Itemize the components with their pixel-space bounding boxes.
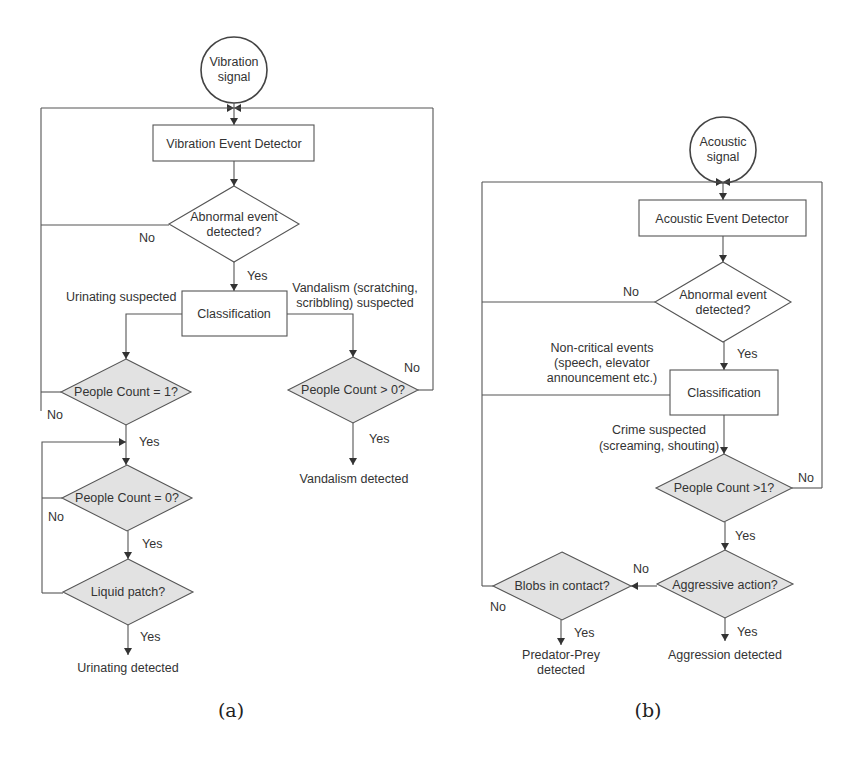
arrow-down-icon (349, 350, 357, 357)
pcgt0-yes-label: Yes (369, 432, 389, 446)
blobs-in-contact-label: Blobs in contact? (514, 579, 609, 593)
arrow-down-icon (230, 284, 238, 291)
abnormal-event-b-label-2: detected? (696, 303, 751, 317)
abnormal-yes-label: Yes (247, 269, 267, 283)
arrow-down-icon (349, 458, 357, 465)
predator-prey-label-2: detected (537, 663, 585, 677)
crime-suspected-label-1: Crime suspected (612, 423, 706, 437)
non-critical-label-3: announcement etc.) (547, 371, 658, 385)
pcgt0-no-label: No (404, 361, 420, 375)
arrow-down-icon (720, 363, 728, 370)
abnormal-event-label-2: detected? (207, 225, 262, 239)
classification-label-b: Classification (687, 386, 761, 400)
panel-a: Vibration signal Vibration Event Detecto… (41, 37, 433, 721)
abnormal-no-label: No (139, 231, 155, 245)
abnormal-event-label-1: Abnormal event (190, 210, 278, 224)
caption-b: (b) (635, 699, 662, 721)
vibration-signal-label-1: Vibration (209, 55, 258, 69)
people-count-gt1-label: People Count >1? (674, 481, 774, 495)
urinating-detected-label: Urinating detected (77, 661, 179, 675)
arrow-down-icon (230, 179, 238, 186)
pcgt1-no-label: No (798, 471, 814, 485)
acoustic-signal-label-1: Acoustic (699, 135, 746, 149)
vandalism-detected-label: Vandalism detected (300, 472, 409, 486)
predator-prey-label-1: Predator-Prey (522, 648, 601, 662)
pc0-no-label: No (48, 510, 64, 524)
abnormal-event-b-label-1: Abnormal event (679, 288, 767, 302)
blobs-no-label: No (490, 600, 506, 614)
blobs-yes-label: Yes (574, 626, 594, 640)
classification-label-a: Classification (197, 307, 271, 321)
people-count-gt0-label: People Count > 0? (301, 383, 405, 397)
pc1-no-label: No (47, 408, 63, 422)
non-critical-label-2: (speech, elevator (554, 356, 650, 370)
vibration-signal-label-2: signal (218, 70, 251, 84)
pcgt1-yes-label: Yes (735, 529, 755, 543)
arrow-down-icon (122, 352, 130, 359)
arrow-down-icon (720, 447, 728, 454)
vandalism-suspected-label-2: scribbling) suspected (296, 296, 413, 310)
arrow-down-icon (721, 543, 729, 550)
arrow-down-icon (122, 458, 130, 465)
abnormal-event-decision (169, 186, 299, 262)
aggression-detected-label: Aggression detected (668, 648, 782, 662)
arrow-down-icon (230, 118, 238, 125)
urinating-suspected-label: Urinating suspected (66, 290, 177, 304)
abnormal-b-no-label: No (623, 285, 639, 299)
flowchart-canvas: Vibration signal Vibration Event Detecto… (0, 0, 861, 758)
abnormal-b-yes-label: Yes (737, 347, 757, 361)
liquid-patch-label: Liquid patch? (91, 585, 165, 599)
people-count-eq1-label: People Count = 1? (74, 385, 178, 399)
aggressive-no-label: No (633, 562, 649, 576)
panel-b: Acoustic signal Acoustic Event Detector … (482, 117, 822, 721)
arrow-down-icon (124, 648, 132, 655)
arrow-down-icon (719, 193, 727, 200)
crime-suspected-label-2: (screaming, shouting) (599, 439, 719, 453)
arrow-down-icon (721, 634, 729, 641)
aggressive-action-label: Aggressive action? (672, 578, 778, 592)
arrow-right-icon (119, 438, 126, 446)
pc0-yes-label: Yes (142, 537, 162, 551)
aggressive-yes-label: Yes (737, 625, 757, 639)
pc1-yes-label: Yes (139, 435, 159, 449)
non-critical-label-1: Non-critical events (551, 341, 654, 355)
vibration-event-detector-label: Vibration Event Detector (166, 137, 301, 151)
liquid-yes-label: Yes (140, 630, 160, 644)
arrow-down-icon (719, 255, 727, 262)
people-count-eq0-label: People Count = 0? (75, 491, 179, 505)
vandalism-suspected-label-1: Vandalism (scratching, (292, 281, 418, 295)
abnormal-event-decision-b (655, 262, 791, 342)
acoustic-event-detector-label: Acoustic Event Detector (655, 212, 788, 226)
caption-a: (a) (218, 699, 244, 721)
arrow-down-icon (557, 638, 565, 645)
acoustic-signal-label-2: signal (707, 150, 740, 164)
arrow-down-icon (124, 552, 132, 559)
